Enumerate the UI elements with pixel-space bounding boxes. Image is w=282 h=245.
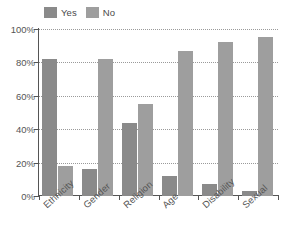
- y-tick-label-40: 40%: [2, 124, 35, 135]
- legend-swatch-no: [86, 7, 99, 18]
- y-tick-label-20: 20%: [2, 157, 35, 168]
- legend-label-yes: Yes: [61, 7, 77, 18]
- bar: [218, 42, 233, 196]
- x-tick-mark: [278, 195, 279, 200]
- bar: [98, 59, 113, 196]
- bar: [258, 37, 273, 196]
- bar-group: [238, 29, 278, 196]
- bar: [42, 59, 57, 196]
- plot-area: [39, 29, 278, 196]
- bar-chart: Yes No 0%20%40%60%80%100% EthnicityGende…: [0, 0, 282, 245]
- legend-item-no: No: [86, 7, 115, 18]
- bar-group: [79, 29, 119, 196]
- bar-group: [39, 29, 79, 196]
- x-tick-mark: [79, 195, 80, 200]
- bar: [122, 123, 137, 196]
- y-tick-label-100: 100%: [2, 24, 35, 35]
- legend-item-yes: Yes: [44, 7, 77, 18]
- legend-label-no: No: [103, 7, 115, 18]
- y-tick-label-0: 0%: [2, 191, 35, 202]
- y-tick-label-80: 80%: [2, 57, 35, 68]
- y-tick-label-60: 60%: [2, 90, 35, 101]
- bar: [178, 51, 193, 196]
- bar-group: [198, 29, 238, 196]
- x-tick-mark: [39, 195, 40, 200]
- x-tick-mark: [119, 195, 120, 200]
- legend-swatch-yes: [44, 7, 57, 18]
- x-tick-mark: [238, 195, 239, 200]
- x-tick-mark: [198, 195, 199, 200]
- x-tick-mark: [159, 195, 160, 200]
- y-axis-labels: 0%20%40%60%80%100%: [0, 0, 35, 245]
- bar-group: [159, 29, 199, 196]
- chart-legend: Yes No: [44, 5, 115, 20]
- bar-group: [119, 29, 159, 196]
